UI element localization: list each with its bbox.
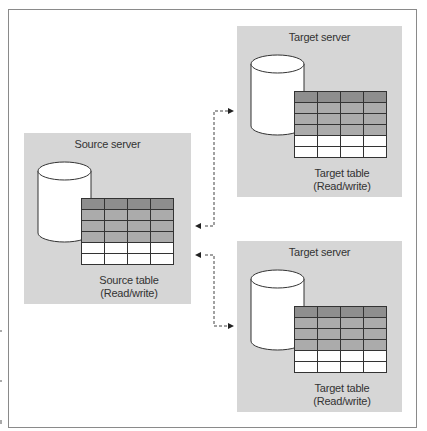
arrowhead-right-icon	[228, 323, 234, 329]
arrowhead-left-icon	[195, 223, 201, 229]
arrowhead-right-icon	[228, 108, 234, 114]
arrowhead-left-icon	[195, 252, 201, 258]
arrow-to-target-2	[205, 255, 229, 326]
arrow-to-target-1	[205, 111, 229, 226]
replication-arrows	[0, 0, 427, 431]
